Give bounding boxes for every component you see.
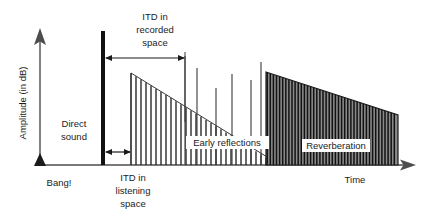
impulse-response-diagram: Amplitude (in dB) Bang! Time Direct soun… [0,0,423,221]
itd-recorded-label-line3: space [142,37,167,48]
direct-sound-label-line2: sound [61,131,87,142]
early-reflections-label: Early reflections [193,137,261,148]
diagram-canvas: Amplitude (in dB) Bang! Time Direct soun… [0,0,423,221]
early-reflections-label-group: Early reflections [186,136,269,149]
itd-recorded-label-line2: recorded [136,24,174,35]
itd-recorded-label-line1: ITD in [142,11,167,22]
itd-listening-label-line3: space [120,198,145,209]
y-axis-label: Amplitude (in dB) [17,67,28,140]
itd-listening-label-line1: ITD in [120,172,145,183]
itd-listening-label-line2: listening [116,185,151,196]
direct-sound-label-line1: Direct [62,118,87,129]
x-axis-label: Time [345,174,366,185]
origin-bang-label: Bang! [47,177,72,188]
direct-sound-impulse-bar [101,31,105,165]
reverberation-label-group: Reverberation [302,139,370,152]
reverberation-label: Reverberation [306,140,366,151]
